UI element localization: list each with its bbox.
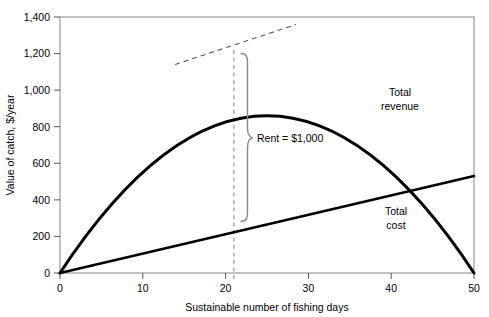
x-tick-label-10: 10 — [137, 282, 149, 294]
y-tick-label-1200: 1,200 — [24, 47, 50, 59]
economics-fishery-chart: 1,400 1,200 1,000 800 600 400 200 0 0 10… — [0, 0, 489, 317]
y-tick-label-200: 200 — [32, 230, 50, 242]
x-tick-label-0: 0 — [57, 282, 63, 294]
total-cost-label-line1: Total — [385, 205, 407, 217]
y-tick-label-1400: 1,400 — [24, 11, 50, 23]
y-tick-label-0: 0 — [44, 267, 50, 279]
x-axis-title: Sustainable number of fishing days — [185, 301, 348, 313]
x-tick-label-50: 50 — [468, 282, 480, 294]
x-tick-label-40: 40 — [385, 282, 397, 294]
x-tick-label-20: 20 — [220, 282, 232, 294]
y-tick-label-600: 600 — [32, 157, 50, 169]
x-tick-label-30: 30 — [303, 282, 315, 294]
y-axis-title: Value of catch, $/year — [4, 94, 16, 195]
y-tick-label-1000: 1,000 — [24, 84, 50, 96]
rent-annotation-label: Rent = $1,000 — [257, 132, 323, 144]
total-revenue-label-line1: Total — [389, 86, 411, 98]
y-tick-label-400: 400 — [32, 194, 50, 206]
y-tick-label-800: 800 — [32, 121, 50, 133]
chart-figure: 1,400 1,200 1,000 800 600 400 200 0 0 10… — [0, 0, 489, 317]
total-cost-label-line2: cost — [386, 219, 405, 231]
total-revenue-label-line2: revenue — [381, 100, 419, 112]
